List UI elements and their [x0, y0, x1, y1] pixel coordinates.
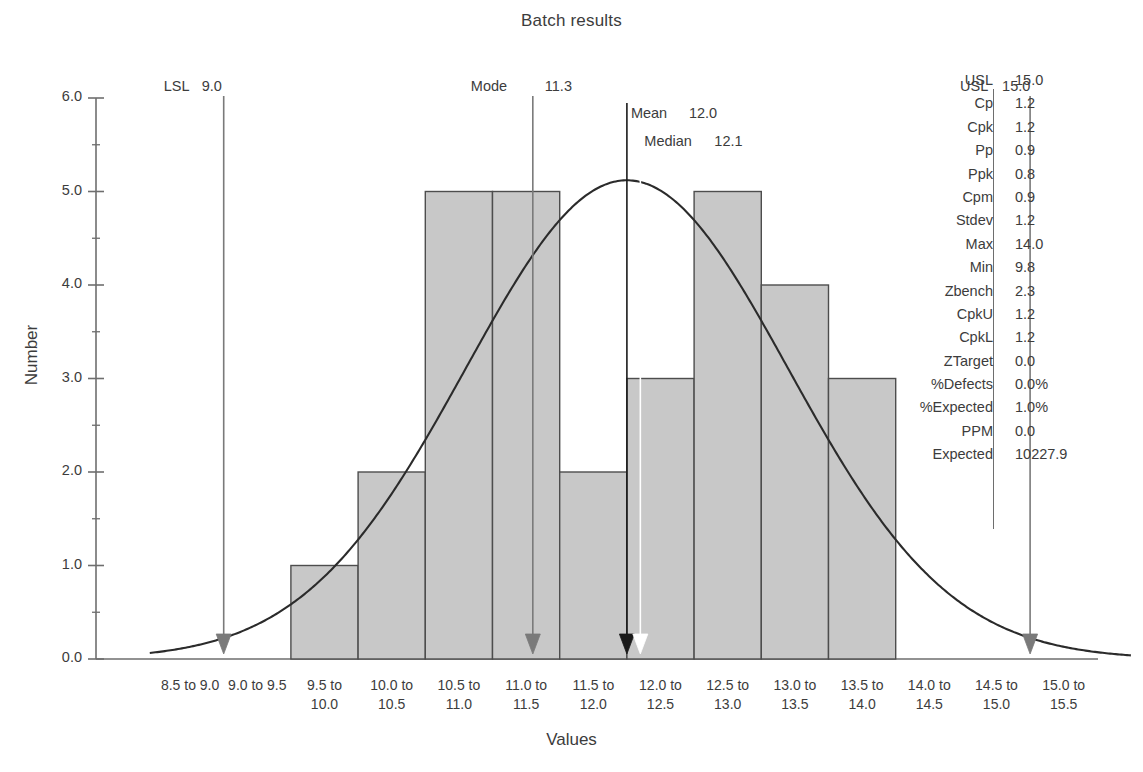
stats-row: Min9.8 [893, 259, 1103, 282]
stats-value: 0.9 [1004, 142, 1103, 158]
histogram-bar [291, 566, 358, 660]
stats-label: Stdev [893, 212, 1004, 228]
stats-row: Zbench2.3 [893, 283, 1103, 306]
stats-row: Pp0.9 [893, 142, 1103, 165]
stats-value: 1.2 [1004, 306, 1103, 322]
histogram-bar [627, 379, 694, 660]
stats-label: ZTarget [893, 353, 1004, 369]
stats-value: 2.3 [1004, 283, 1103, 299]
stats-label: Zbench [893, 283, 1004, 299]
histogram-bar [425, 192, 492, 660]
stats-row: Stdev1.2 [893, 212, 1103, 235]
stats-value: 14.0 [1004, 236, 1103, 252]
stats-label: %Defects [893, 376, 1004, 392]
stats-label: CpkU [893, 306, 1004, 322]
stats-value: 1.2 [1004, 119, 1103, 135]
stats-row: CpkL1.2 [893, 329, 1103, 352]
stats-label: USL [893, 72, 1004, 88]
marker-arrow-usl [1023, 634, 1038, 654]
stats-value: 1.0% [1004, 399, 1103, 415]
stats-label: %Expected [893, 399, 1004, 415]
stats-value: 1.2 [1004, 95, 1103, 111]
stats-row: %Defects0.0% [893, 376, 1103, 399]
stats-value: 0.0% [1004, 376, 1103, 392]
stats-row: %Expected1.0% [893, 399, 1103, 422]
histogram-bars [291, 192, 896, 660]
batch-results-chart: Batch results Number Values 0.01.02.03.0… [0, 0, 1143, 772]
stats-label: Expected [893, 446, 1004, 462]
stats-value: 9.8 [1004, 259, 1103, 275]
histogram-bar [761, 285, 828, 659]
marker-arrow-lsl [216, 634, 231, 654]
stats-row: Max14.0 [893, 236, 1103, 259]
stats-table: USL15.0Cp1.2Cpk1.2Pp0.9Ppk0.8Cpm0.9Stdev… [893, 72, 1103, 470]
histogram-bar [829, 379, 896, 660]
stats-row: Cpm0.9 [893, 189, 1103, 212]
stats-value: 1.2 [1004, 329, 1103, 345]
stats-label: Min [893, 259, 1004, 275]
stats-value: 10227.9 [1004, 446, 1103, 462]
stats-label: CpkL [893, 329, 1004, 345]
stats-label: Ppk [893, 166, 1004, 182]
stats-value: 0.9 [1004, 189, 1103, 205]
stats-label: Cp [893, 95, 1004, 111]
stats-row: Expected10227.9 [893, 446, 1103, 469]
stats-row: USL15.0 [893, 72, 1103, 95]
histogram-bar [694, 192, 761, 660]
histogram-bar [560, 472, 627, 659]
stats-value: 0.0 [1004, 353, 1103, 369]
stats-value: 1.2 [1004, 212, 1103, 228]
stats-row: Ppk0.8 [893, 166, 1103, 189]
stats-value: 0.0 [1004, 423, 1103, 439]
stats-row: PPM0.0 [893, 423, 1103, 446]
stats-row: CpkU1.2 [893, 306, 1103, 329]
stats-label: Cpm [893, 189, 1004, 205]
stats-label: Pp [893, 142, 1004, 158]
stats-row: Cp1.2 [893, 95, 1103, 118]
stats-value: 15.0 [1004, 72, 1103, 88]
histogram-bar [358, 472, 425, 659]
stats-row: ZTarget0.0 [893, 353, 1103, 376]
stats-value: 0.8 [1004, 166, 1103, 182]
stats-label: PPM [893, 423, 1004, 439]
histogram-bar [493, 192, 560, 660]
stats-label: Max [893, 236, 1004, 252]
stats-label: Cpk [893, 119, 1004, 135]
stats-row: Cpk1.2 [893, 119, 1103, 142]
